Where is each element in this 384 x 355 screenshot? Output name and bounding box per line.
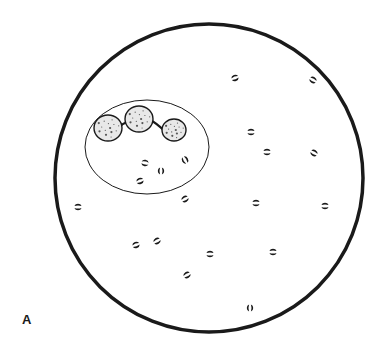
diplococcus-icon xyxy=(136,177,145,185)
coccus-half xyxy=(162,167,164,174)
coccus-half xyxy=(309,152,316,158)
chromatin-dot xyxy=(140,118,142,120)
chromatin-dot xyxy=(143,110,144,111)
coccus-half xyxy=(231,74,239,79)
coccus-half xyxy=(141,163,148,167)
diplococcus-icon xyxy=(182,270,191,279)
diplococcus-icon xyxy=(231,74,240,82)
coccus-half xyxy=(180,194,187,200)
chromatin-dot xyxy=(176,132,178,134)
coccus-half xyxy=(252,200,259,202)
extracellular-diplococci xyxy=(74,74,328,312)
coccus-half xyxy=(206,251,213,253)
chromatin-dot xyxy=(176,137,177,138)
chromatin-dot xyxy=(118,125,119,126)
coccus-half xyxy=(321,207,328,209)
diplococcus-icon xyxy=(158,167,164,174)
diplococcus-icon xyxy=(132,241,141,249)
coccus-half xyxy=(206,255,213,257)
nucleus-lobe xyxy=(125,106,153,132)
coccus-half xyxy=(137,181,145,186)
diplococcus-icon xyxy=(263,149,270,155)
nucleus-lobe xyxy=(94,115,122,141)
diplococcus-icon xyxy=(206,251,213,257)
coccus-half xyxy=(184,155,190,162)
diplococcus-icon xyxy=(269,249,276,255)
diplococcus-icon xyxy=(247,129,254,135)
coccus-half xyxy=(247,304,249,311)
microscopy-field-figure xyxy=(0,0,384,355)
chromatin-dot xyxy=(141,122,143,124)
chromatin-dot xyxy=(105,130,106,131)
chromatin-dot xyxy=(177,123,178,124)
chromatin-dot xyxy=(142,127,143,128)
coccus-half xyxy=(232,78,240,83)
coccus-half xyxy=(247,129,254,131)
chromatin-dot xyxy=(132,117,133,118)
chromatin-dot xyxy=(149,116,150,117)
chromatin-dot xyxy=(171,131,172,132)
coccus-half xyxy=(321,203,328,205)
coccus-half xyxy=(252,204,259,206)
chromatin-dot xyxy=(147,121,148,122)
diplococcus-icon xyxy=(141,159,149,167)
microscope-field-circle xyxy=(55,24,363,332)
coccus-half xyxy=(132,241,140,246)
coccus-half xyxy=(182,270,189,276)
chromatin-dot xyxy=(104,121,105,122)
chromatin-dot xyxy=(183,128,184,129)
chromatin-dot xyxy=(113,124,114,125)
chromatin-dot xyxy=(108,123,109,124)
coccus-half xyxy=(184,274,191,280)
chromatin-dot xyxy=(105,134,107,136)
diplococcus-icon xyxy=(247,304,253,311)
chromatin-dot xyxy=(144,115,145,116)
coccus-half xyxy=(136,177,144,182)
coccus-half xyxy=(154,240,161,246)
chromatin-dot xyxy=(139,114,140,115)
chromatin-dot xyxy=(111,136,112,137)
coccus-half xyxy=(269,249,276,251)
chromatin-dot xyxy=(116,130,117,131)
coccus-half xyxy=(152,236,159,242)
chromatin-dot xyxy=(129,113,131,115)
chromatin-dot xyxy=(101,126,102,127)
coccus-half xyxy=(182,198,189,204)
chromatin-dot xyxy=(174,126,175,127)
chromatin-dot xyxy=(168,129,169,130)
intracellular-diplococci xyxy=(136,155,190,185)
coccus-half xyxy=(158,167,160,174)
coccus-half xyxy=(310,75,317,81)
coccus-half xyxy=(263,153,270,155)
chromatin-dot xyxy=(110,131,112,133)
chromatin-dot xyxy=(136,121,137,122)
chromatin-dot xyxy=(179,126,180,127)
neutrophil-cell xyxy=(85,100,209,194)
diplococcus-icon xyxy=(321,203,328,209)
chromatin-dot xyxy=(112,119,113,120)
coccus-half xyxy=(74,208,81,210)
coccus-half xyxy=(269,253,276,255)
chromatin-dot xyxy=(109,127,111,129)
coccus-half xyxy=(263,149,270,151)
chromatin-dot xyxy=(180,132,181,133)
coccus-half xyxy=(133,245,141,250)
panel-label: A xyxy=(22,312,31,327)
nucleus-lobe xyxy=(162,119,186,141)
chromatin-dot xyxy=(135,112,136,113)
diplococcus-icon xyxy=(180,194,189,203)
chromatin-dot xyxy=(136,125,138,127)
coccus-half xyxy=(251,304,253,311)
diplococcus-icon xyxy=(252,200,259,206)
diplococcus-icon xyxy=(309,148,318,157)
chromatin-dot xyxy=(166,132,168,134)
chromatin-dot xyxy=(165,125,167,127)
coccus-half xyxy=(311,148,318,154)
chromatin-dot xyxy=(175,129,177,131)
coccus-half xyxy=(308,79,315,85)
chromatin-dot xyxy=(98,122,100,124)
diplococcus-icon xyxy=(308,75,317,84)
chromatin-dot xyxy=(129,121,131,123)
coccus-half xyxy=(180,157,186,164)
diplococcus-icon xyxy=(74,204,81,210)
